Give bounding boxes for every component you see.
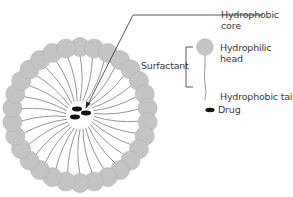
label-hydrophobic-core: Hydrophobic core [221,10,279,31]
surfactant-tails [21,56,139,175]
surfactant-legend-icon [197,39,214,100]
surfactant-tail [78,129,80,175]
drug-legend-icon [205,108,214,112]
surfactant-tail [90,75,124,105]
surfactant-tail [23,119,66,133]
surfactant-tail [29,122,68,145]
surfactant-tail [86,61,105,103]
hydrophilic-head [56,39,75,58]
label-hydrophobic-core-line1: Hydrophobic [221,10,279,21]
surfactant-tail [93,97,136,111]
surfactant-tail [45,67,72,104]
label-hydrophilic-head-line2: head [220,54,271,65]
drug-molecules [70,107,91,120]
label-surfactant: Surfactant [141,61,189,72]
hydrophilic-heads [3,38,157,193]
label-hydrophobic-tail: Hydrophobic tail [220,92,293,103]
surfactant-tail [56,128,75,170]
label-hydrophilic-head-line1: Hydrophilic [220,43,271,54]
surfactant-tail [88,126,115,163]
label-hydrophobic-core-line2: core [221,21,279,32]
drug-molecule [81,111,91,116]
surfactant-tail [36,124,70,154]
drug-molecule [72,107,82,112]
surfactant-tail [94,117,139,122]
surfactant-tail [80,56,82,102]
surfactant-tail [21,108,66,113]
drug-molecule [70,115,80,120]
hydrophobic-tail-icon [205,55,206,100]
label-hydrophilic-head: Hydrophilic head [220,43,271,64]
label-drug: Drug [218,105,240,116]
hydrophilic-head-icon [197,39,214,56]
